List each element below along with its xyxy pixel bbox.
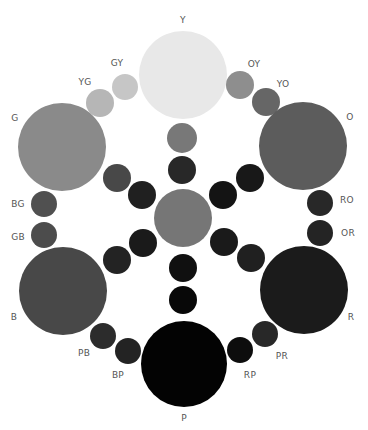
hue-circle-oy — [226, 71, 254, 99]
spoke-circle-ll-outer — [103, 246, 131, 274]
spoke-circle-top-outer — [167, 123, 197, 153]
spoke-circle-ul-outer — [103, 164, 131, 192]
hue-circle-ro — [307, 190, 333, 216]
hue-label-ro: RO — [340, 195, 354, 205]
hue-label-or: OR — [341, 228, 355, 238]
spoke-circle-lr-outer — [237, 244, 265, 272]
hue-circle-rp — [227, 337, 253, 363]
hue-circle-gb — [31, 222, 57, 248]
hue-label-r: R — [348, 312, 355, 322]
spoke-circle-lr-inner — [210, 228, 238, 256]
hue-label-pr: PR — [276, 351, 288, 361]
spoke-circle-ul-inner — [128, 181, 156, 209]
hue-label-p: P — [181, 413, 187, 423]
hue-label-pb: PB — [78, 348, 90, 358]
hue-circle-pb — [90, 323, 116, 349]
spoke-circle-top-inner — [168, 156, 196, 184]
hue-label-y: Y — [180, 15, 186, 25]
hue-label-oy: OY — [248, 59, 261, 69]
hue-circle-bp — [115, 338, 141, 364]
hue-circle-g — [18, 103, 106, 191]
hue-circle-r — [260, 246, 348, 334]
color-wheel-diagram: YGYYGOYYOGOBGGBROORBRPBBPPRRPP — [0, 0, 368, 430]
hue-label-yo: YO — [277, 79, 290, 89]
hue-circle-pr — [252, 321, 278, 347]
hue-circle-gy — [112, 74, 138, 100]
spoke-circle-bottom-outer — [169, 286, 197, 314]
hue-label-bp: BP — [112, 370, 124, 380]
hue-label-rp: RP — [244, 370, 256, 380]
hue-circle-o — [259, 102, 347, 190]
spoke-circle-ur-outer — [236, 164, 264, 192]
hue-label-gb: GB — [11, 232, 25, 242]
spoke-circle-ll-inner — [129, 229, 157, 257]
hue-circle-or — [307, 220, 333, 246]
spoke-circle-bottom-inner — [169, 254, 197, 282]
hue-circle-y — [139, 31, 227, 119]
hue-label-bg: BG — [11, 199, 25, 209]
hue-label-g: G — [11, 113, 18, 123]
hue-circle-b — [19, 247, 107, 335]
hue-label-gy: GY — [111, 58, 124, 68]
hue-circle-bg — [31, 191, 57, 217]
center-circle — [154, 189, 212, 247]
spoke-circle-ur-inner — [209, 181, 237, 209]
hue-label-b: B — [11, 312, 17, 322]
hue-label-o: O — [346, 112, 353, 122]
hue-label-yg: YG — [78, 77, 91, 87]
hue-circle-p — [141, 321, 227, 407]
